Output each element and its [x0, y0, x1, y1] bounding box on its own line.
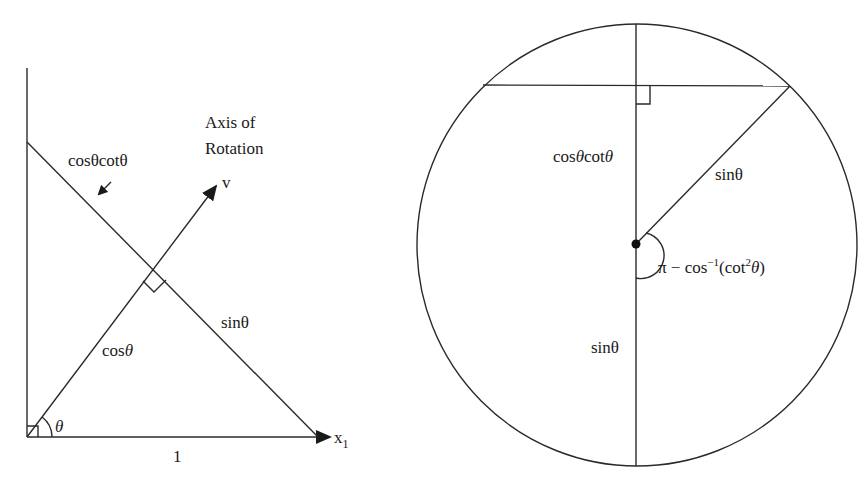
theta-label: θ — [55, 417, 63, 436]
cos-cot-label: cosθcotθ — [68, 151, 128, 170]
x1-label: x1 — [334, 428, 349, 451]
cos-cot-label: cosθcotθ — [553, 147, 613, 166]
unit-length-label: 1 — [173, 447, 182, 466]
cos-label: cosθ — [102, 341, 133, 360]
sin-lower-label: sinθ — [591, 338, 619, 357]
v-label: v — [222, 173, 231, 192]
pointer-arrow — [99, 182, 111, 194]
axis-title-line1: Axis of — [205, 113, 256, 132]
right-angle-mark-chord — [636, 86, 650, 104]
left-figure: Axis of Rotation v cosθcotθ cosθ sinθ θ … — [27, 68, 349, 466]
horizontal-chord — [483, 85, 790, 86]
sin-radius-label: sinθ — [715, 165, 743, 184]
diagonal-line — [27, 142, 318, 437]
radius-line — [636, 86, 790, 244]
right-angle-mark-intersection — [143, 280, 166, 292]
rotation-axis-v — [27, 186, 216, 437]
diagram-canvas: Axis of Rotation v cosθcotθ cosθ sinθ θ … — [0, 0, 867, 487]
right-figure: cosθcotθ sinθ sinθ π − cos−1(cot2θ) — [417, 24, 857, 466]
axis-title-line2: Rotation — [205, 139, 264, 158]
center-point — [632, 240, 641, 249]
sin-label: sinθ — [221, 313, 249, 332]
theta-arc — [42, 417, 52, 437]
angle-label: π − cos−1(cot2θ) — [658, 256, 765, 277]
